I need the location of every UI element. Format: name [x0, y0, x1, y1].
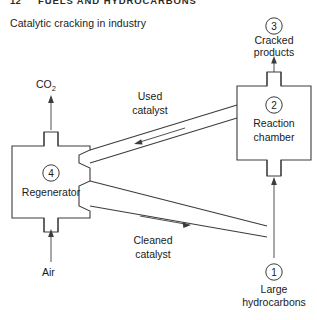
co2-label-subscript: 2: [52, 84, 56, 93]
used-catalyst-label-line2: catalyst: [132, 104, 168, 116]
co2-label: CO2: [36, 78, 56, 93]
catalytic-cracking-diagram: CO2 Air 4 Regenerator 3 Cracked products…: [0, 0, 317, 320]
air-label: Air: [42, 266, 55, 278]
node-1-marker-label: 1: [271, 267, 277, 278]
large-hydrocarbons-arrowhead: [271, 177, 277, 185]
node-2-label-line1: Reaction: [253, 117, 295, 129]
large-hydrocarbons-pipe: [267, 160, 281, 176]
node-2-marker-label: 2: [271, 100, 277, 111]
node-2-label-line2: chamber: [254, 131, 295, 143]
node-4-label: Regenerator: [22, 186, 81, 198]
co2-pipe: [44, 132, 58, 146]
cleaned-catalyst-duct: [90, 181, 267, 237]
node-4-marker-label: 4: [48, 168, 54, 179]
node-1-label-line1: Large: [261, 283, 288, 295]
figure-page: 12 FUELS AND HYDROCARBONS Catalytic crac…: [0, 0, 317, 320]
cleaned-catalyst-arrow-shaft: [140, 216, 185, 224]
node-3-label-line1: Cracked: [254, 34, 293, 46]
cleaned-catalyst-label-line2: catalyst: [135, 248, 171, 260]
regenerator-vessel-outline: [12, 132, 90, 232]
used-catalyst-arrowhead: [134, 139, 143, 144]
node-3-marker-label: 3: [271, 21, 277, 32]
co2-label-text: CO: [36, 78, 52, 90]
cracked-products-pipe: [267, 72, 281, 86]
node-1-label-line2: hydrocarbons: [242, 296, 306, 308]
node-3-label-line2: products: [254, 46, 294, 58]
used-catalyst-label-line1: Used: [138, 90, 163, 102]
cleaned-catalyst-label-line1: Cleaned: [133, 234, 172, 246]
used-catalyst-arrow-shaft: [140, 128, 185, 142]
air-flow-arrowhead: [48, 229, 54, 237]
co2-flow-arrowhead: [48, 95, 54, 103]
